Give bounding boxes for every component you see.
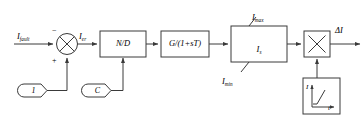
tag-c-connector: [111, 58, 123, 91]
nd-block-label: N/D: [100, 38, 146, 48]
transfer-function-label: G/(1+sT): [161, 38, 209, 48]
tag-one-connector: [47, 58, 67, 91]
delta-i-output-label: ΔI: [335, 25, 343, 35]
summing-minus-sign: −: [52, 26, 57, 35]
fault-current-label: Ifault: [17, 25, 29, 43]
tag-c-label: C: [88, 84, 107, 97]
tag-one-label: 1: [24, 84, 43, 97]
summing-junction: [57, 34, 78, 55]
block-diagram: Ifault − + Ier N/D G/(1+sT) Is Imax Imin…: [0, 0, 364, 121]
summing-plus-sign: +: [52, 56, 57, 65]
multiplier-block: [304, 31, 330, 57]
inset-plot-box: [303, 78, 340, 114]
limit-min-label: Imin: [222, 70, 233, 88]
limit-max-label: Imax: [252, 6, 264, 24]
inset-x-axis-label: t: [328, 104, 330, 112]
inset-y-axis-label: I: [306, 83, 308, 91]
limiter-block-label: Is: [231, 38, 287, 56]
error-current-label: Ier: [79, 25, 86, 43]
